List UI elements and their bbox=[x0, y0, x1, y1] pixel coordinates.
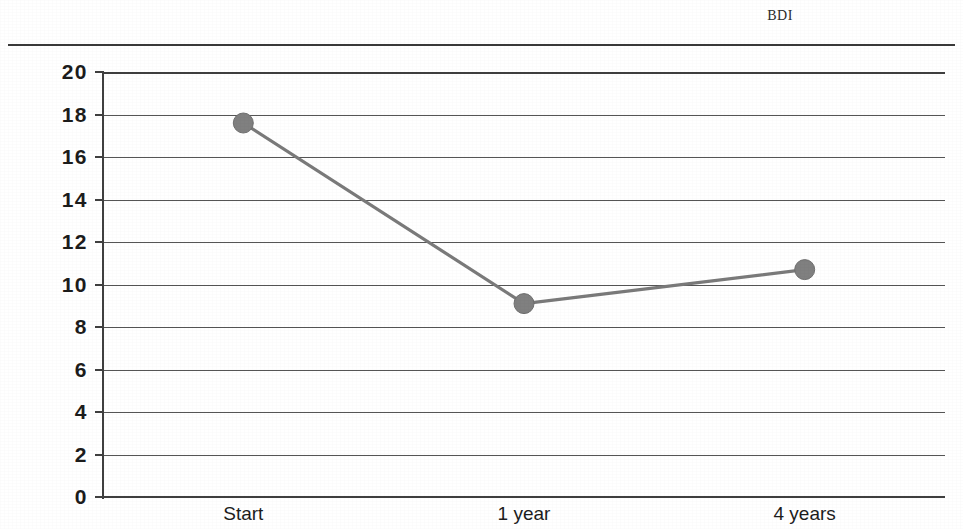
y-axis-tick bbox=[95, 156, 104, 158]
y-axis-tick bbox=[95, 71, 104, 73]
data-point-marker bbox=[514, 294, 534, 314]
data-point-marker bbox=[795, 260, 815, 280]
chart-figure: BDI 20181614121086420 Start1 year4 years bbox=[0, 0, 963, 529]
y-axis-tick bbox=[95, 284, 104, 286]
x-axis-tick-label: 4 years bbox=[774, 503, 836, 525]
x-axis-tick-label: Start bbox=[223, 503, 263, 525]
x-axis-tick-label: 1 year bbox=[498, 503, 551, 525]
series-bdi bbox=[0, 0, 963, 529]
y-axis-tick bbox=[95, 241, 104, 243]
data-point-marker bbox=[233, 113, 253, 133]
y-axis-tick bbox=[95, 454, 104, 456]
y-axis-tick bbox=[95, 326, 104, 328]
y-axis-tick bbox=[95, 199, 104, 201]
y-axis-tick bbox=[95, 496, 104, 498]
y-axis-tick bbox=[95, 114, 104, 116]
y-axis-tick bbox=[95, 369, 104, 371]
y-axis-tick bbox=[95, 411, 104, 413]
